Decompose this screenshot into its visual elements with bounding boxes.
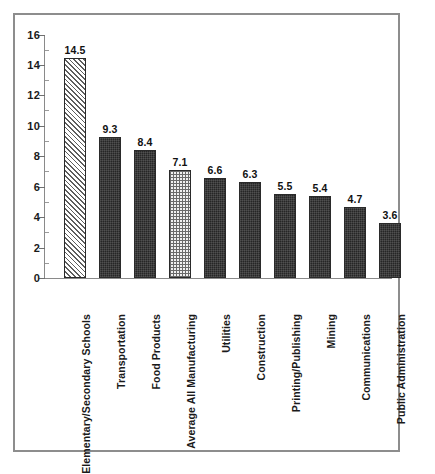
y-tick-label-10: 10 <box>0 126 40 127</box>
bar-value-utilities: 6.6 <box>195 164 235 176</box>
bar-mining[interactable] <box>309 196 331 278</box>
category-label-mining: Mining <box>325 314 337 348</box>
y-tick-label-8: 8 <box>0 156 40 157</box>
bar-value-communications: 4.7 <box>335 193 375 205</box>
category-label-utilities: Utilities <box>220 314 232 353</box>
category-label-transportation: Transportation <box>115 314 127 389</box>
y-tick-label-16: 16 <box>0 35 40 36</box>
y-tick-label-0: 0 <box>0 278 40 279</box>
y-tick-label-14: 14 <box>0 65 40 66</box>
x-axis-line <box>44 278 392 279</box>
category-label-average-all-manufacturing: Average All Manufacturing <box>185 314 197 449</box>
bar-value-food-products: 8.4 <box>125 136 165 148</box>
bar-public-administration[interactable] <box>379 223 401 278</box>
category-label-elementary-secondary-schools: Elementary/Secondary Schools <box>80 314 92 474</box>
y-tick-minor-5 <box>45 202 49 203</box>
bar-printing-publishing[interactable] <box>274 194 296 278</box>
y-tick-minor-15 <box>45 50 49 51</box>
bar-value-construction: 6.3 <box>230 168 270 180</box>
y-tick-label-6: 6 <box>0 187 40 188</box>
y-tick-minor-3 <box>45 232 49 233</box>
y-tick-label-2: 2 <box>0 248 40 249</box>
bar-food-products[interactable] <box>134 150 156 278</box>
category-label-communications: Communications <box>360 314 372 401</box>
plot-area: 16 14 12 10 8 6 4 2 0 <box>44 30 392 278</box>
bar-value-mining: 5.4 <box>300 182 340 194</box>
y-tick-label-12: 12 <box>0 95 40 96</box>
y-tick-minor-1 <box>45 263 49 264</box>
category-label-food-products: Food Products <box>150 314 162 389</box>
bar-utilities[interactable] <box>204 178 226 278</box>
y-tick-label-4: 4 <box>0 217 40 218</box>
category-label-public-administration: Public Administration <box>395 314 407 424</box>
bar-value-transportation: 9.3 <box>90 123 130 135</box>
y-tick-minor-9 <box>45 141 49 142</box>
y-tick-minor-11 <box>45 110 49 111</box>
y-tick-minor-13 <box>45 80 49 81</box>
category-label-construction: Construction <box>255 314 267 381</box>
y-tick-minor-7 <box>45 171 49 172</box>
bar-communications[interactable] <box>344 207 366 278</box>
category-label-printing-publishing: Printing/Publishing <box>290 314 302 412</box>
bar-value-printing-publishing: 5.5 <box>265 180 305 192</box>
bar-elementary-secondary-schools[interactable] <box>64 58 86 278</box>
bar-value-public-administration: 3.6 <box>370 209 410 221</box>
bar-value-elementary-secondary-schools: 14.5 <box>55 44 95 56</box>
bar-average-all-manufacturing[interactable] <box>169 170 191 278</box>
bar-transportation[interactable] <box>99 137 121 278</box>
bar-value-average-all-manufacturing: 7.1 <box>160 156 200 168</box>
bar-construction[interactable] <box>239 182 261 278</box>
